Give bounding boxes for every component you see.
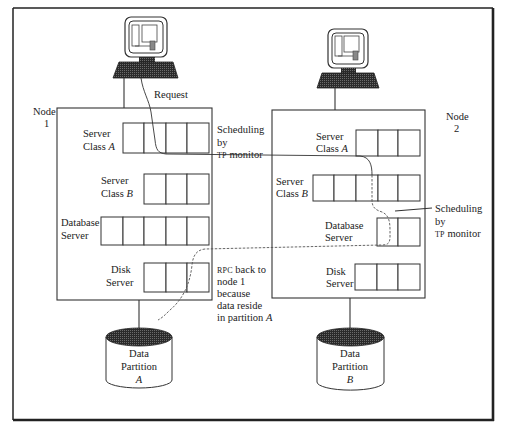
terminal-icon-node2 (317, 29, 379, 88)
queue-cells (101, 217, 209, 245)
node1-disk-server: Disk Server (106, 263, 209, 292)
svg-text:Scheduling: Scheduling (217, 124, 265, 135)
svg-text:Class A: Class A (316, 143, 348, 154)
svg-text:Database: Database (61, 217, 100, 228)
svg-text:by: by (435, 216, 446, 227)
svg-text:Disk: Disk (326, 266, 347, 277)
svg-text:Partition: Partition (332, 361, 369, 372)
svg-text:Server: Server (326, 278, 354, 289)
node2-number: 2 (454, 123, 459, 134)
data-partition-b: Data Partition B (317, 328, 384, 390)
svg-text:Server: Server (61, 230, 89, 241)
node1-number: 1 (44, 118, 49, 129)
node1-database-server: Database Server (61, 217, 209, 245)
svg-text:Server: Server (106, 277, 134, 288)
scheduling-annotation-node1: Scheduling by TP monitor (217, 124, 265, 160)
svg-text:Class A: Class A (83, 141, 115, 152)
queue-cells (377, 218, 420, 246)
svg-text:Data: Data (129, 348, 149, 359)
node2-label: Node (446, 111, 469, 122)
queue-cells (356, 130, 420, 156)
svg-text:TP monitor: TP monitor (435, 228, 481, 239)
terminal-icon-node1 (113, 17, 178, 78)
queue-cells (123, 123, 209, 153)
svg-text:Data: Data (340, 348, 360, 359)
svg-text:Class B: Class B (101, 188, 133, 199)
svg-text:Server: Server (316, 131, 344, 142)
queue-cells (355, 264, 420, 290)
queue-cells (313, 175, 420, 201)
svg-text:B: B (347, 374, 354, 385)
svg-text:because: because (217, 288, 251, 299)
svg-text:node 1: node 1 (217, 276, 245, 287)
svg-text:in partition A: in partition A (217, 312, 273, 323)
svg-text:by: by (217, 137, 228, 148)
svg-text:TP monitor: TP monitor (217, 149, 263, 160)
svg-text:RPC back to: RPC back to (217, 264, 266, 275)
node1-label: Node (33, 106, 56, 117)
svg-text:Server: Server (276, 176, 304, 187)
svg-text:Class B: Class B (276, 188, 308, 199)
tp-monitor-diagram: Node 1 Server Class A Server Class B Dat… (0, 0, 505, 430)
svg-text:Server: Server (325, 232, 353, 243)
svg-text:Partition: Partition (121, 361, 158, 372)
queue-cells (144, 263, 209, 292)
node2-server-class-a: Server Class A (316, 130, 420, 156)
svg-text:Server: Server (83, 128, 111, 139)
data-partition-a: Data Partition A (106, 328, 172, 388)
svg-text:data reside: data reside (217, 300, 263, 311)
svg-text:Server: Server (101, 175, 129, 186)
svg-text:A: A (135, 374, 143, 385)
svg-text:Scheduling: Scheduling (435, 203, 483, 214)
svg-text:Database: Database (325, 220, 364, 231)
rpc-annotation: RPC back to node 1 because data reside i… (217, 264, 273, 323)
svg-text:Disk: Disk (111, 264, 132, 275)
queue-cells (144, 174, 209, 204)
node1-server-class-a: Server Class A (83, 123, 209, 153)
request-label: Request (154, 89, 188, 100)
node2-server-class-b: Server Class B (276, 175, 420, 201)
